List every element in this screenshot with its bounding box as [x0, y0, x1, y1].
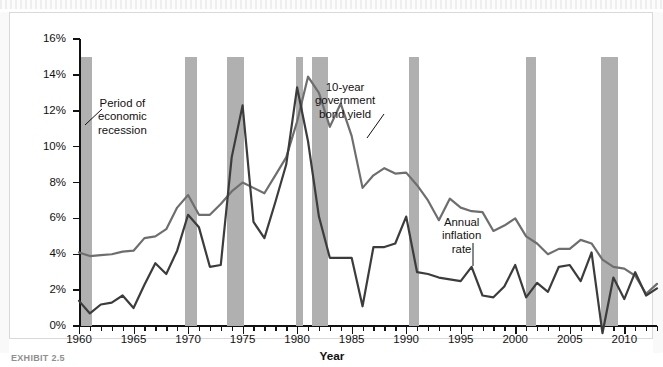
x-tick-mark-minor	[472, 326, 473, 331]
x-tick-mark-minor	[123, 326, 124, 331]
x-tick-mark-minor	[275, 326, 276, 331]
annotation-inflation-line3: rate	[452, 243, 472, 255]
x-tick-label: 1975	[230, 333, 256, 345]
x-tick-mark-minor	[493, 326, 494, 331]
annotation-recession: Period of economic recession	[98, 97, 147, 137]
x-tick-mark-minor	[363, 326, 364, 331]
x-tick-label: 1985	[339, 333, 365, 345]
chart-frame: Inflation Rate or Interest Rate (Bond Yi…	[9, 12, 653, 339]
series-line	[79, 87, 657, 333]
figure-caption: EXHIBIT 2.5	[11, 353, 65, 365]
x-tick-mark-minor	[592, 326, 593, 331]
annotation-inflation-line2: inflation	[442, 229, 481, 241]
x-axis-title: Year	[10, 349, 654, 363]
scan-artifact-left	[0, 12, 9, 353]
y-tick-label: 14%	[43, 69, 66, 81]
x-tick-mark-minor	[221, 326, 222, 331]
annotation-inflation-line1: Annual	[444, 216, 479, 228]
annotation-recession-line1: Period of	[100, 97, 146, 109]
scan-artifact-top	[0, 0, 663, 9]
x-tick-mark-minor	[526, 326, 527, 331]
y-tick-label: 8%	[49, 177, 66, 189]
y-tick-label: 10%	[43, 141, 66, 153]
x-tick-mark-minor	[101, 326, 102, 331]
x-tick-label: 2005	[557, 333, 583, 345]
x-tick-mark-minor	[613, 326, 614, 331]
x-tick-mark-minor	[155, 326, 156, 331]
x-tick-mark-minor	[384, 326, 385, 331]
x-tick-mark-minor	[90, 326, 91, 331]
x-tick-mark-minor	[657, 326, 658, 331]
x-tick-label: 1990	[393, 333, 419, 345]
x-tick-mark-minor	[166, 326, 167, 331]
x-tick-mark-minor	[177, 326, 178, 331]
annotation-recession-line2: economic	[98, 110, 147, 122]
x-tick-mark-minor	[373, 326, 374, 331]
x-tick-label: 1995	[448, 333, 474, 345]
figure-page: Inflation Rate or Interest Rate (Bond Yi…	[0, 0, 663, 367]
x-tick-label: 1980	[284, 333, 310, 345]
x-tick-mark-minor	[417, 326, 418, 331]
x-tick-mark-minor	[548, 326, 549, 331]
x-tick-mark-minor	[450, 326, 451, 331]
x-tick-mark-minor	[253, 326, 254, 331]
x-tick-mark-minor	[286, 326, 287, 331]
x-tick-label: 1965	[121, 333, 147, 345]
annotation-bond-line3: bond yield	[319, 108, 371, 120]
y-tick-label: 6%	[49, 212, 66, 224]
annotation-bond-yield: 10-year government bond yield	[315, 81, 375, 121]
x-tick-mark-minor	[439, 326, 440, 331]
y-tick-label: 2%	[49, 284, 66, 296]
y-tick-label: 12%	[43, 105, 66, 117]
x-tick-mark-minor	[264, 326, 265, 331]
x-tick-mark-minor	[112, 326, 113, 331]
x-tick-mark-minor	[308, 326, 309, 331]
annotation-bond-line2: government	[315, 94, 375, 106]
x-tick-mark-minor	[537, 326, 538, 331]
y-tick-label: 16%	[43, 33, 66, 45]
x-tick-mark-minor	[559, 326, 560, 331]
x-tick-mark-minor	[635, 326, 636, 331]
x-tick-mark-minor	[483, 326, 484, 331]
y-tick-label: 4%	[49, 248, 66, 260]
x-tick-mark-minor	[210, 326, 211, 331]
annotation-bond-line1: 10-year	[326, 81, 365, 93]
x-tick-mark-minor	[319, 326, 320, 331]
x-tick-mark-minor	[232, 326, 233, 331]
annotation-recession-line3: recession	[98, 124, 147, 136]
x-tick-mark-minor	[199, 326, 200, 331]
x-tick-mark-minor	[341, 326, 342, 331]
x-tick-label: 1970	[175, 333, 201, 345]
y-tick-label: 0%	[49, 320, 66, 332]
x-tick-label: 2000	[502, 333, 528, 345]
x-tick-mark-minor	[330, 326, 331, 331]
x-tick-label: 1960	[66, 333, 92, 345]
x-tick-mark-minor	[504, 326, 505, 331]
x-tick-mark-minor	[428, 326, 429, 331]
x-tick-mark-minor	[144, 326, 145, 331]
x-tick-mark-minor	[395, 326, 396, 331]
annotation-inflation-rate: Annual inflation rate	[442, 216, 481, 256]
x-tick-mark-minor	[646, 326, 647, 331]
x-tick-mark-minor	[581, 326, 582, 331]
x-tick-label: 2010	[611, 333, 637, 345]
